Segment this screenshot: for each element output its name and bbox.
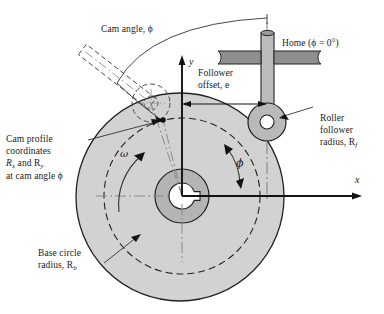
roller-follower-leader-line	[284, 107, 313, 116]
ry-subscript: y	[41, 162, 44, 170]
guide-bar-right-segment	[274, 51, 321, 64]
cam-profile-label-line2: coordinates	[6, 146, 51, 158]
y-axis-arrowhead	[179, 55, 186, 65]
cam-follower-diagram: Cam angle, ϕ Home (ϕ = 0°) Follower offs…	[0, 0, 384, 314]
roller-follower-label-line2: follower	[320, 125, 353, 137]
roller-follower-label-line3: radius, Rf	[320, 137, 357, 152]
x-axis-arrowhead	[352, 193, 362, 200]
phantom-rod-centerline	[86, 52, 151, 103]
roller-radius-text: radius, R	[320, 137, 355, 147]
roller-follower-label-line1: Roller	[320, 113, 344, 125]
base-circle-radius-text: radius, R	[38, 260, 73, 270]
base-circle-label-line2: radius, Rb	[38, 260, 77, 275]
follower-rod-top-cap	[261, 30, 274, 35]
y-axis-label: y	[189, 56, 194, 68]
roller-bore	[260, 115, 274, 129]
guide-bar-left-segment	[218, 51, 261, 64]
x-axis-label: x	[355, 174, 360, 186]
follower-offset-label-line1: Follower	[198, 68, 233, 80]
phi-symbol-label: ϕ	[236, 158, 244, 170]
follower-offset-label-line2: offset, e	[198, 80, 229, 92]
base-circle-label-line1: Base circle	[38, 248, 81, 260]
and-text: and R	[15, 158, 40, 168]
base-circle-subscript: b	[73, 264, 77, 272]
cam-profile-label-line4: at cam angle ϕ	[6, 171, 63, 183]
roller-radius-subscript: f	[355, 141, 357, 149]
roller-follower-group	[248, 30, 286, 141]
cam-angle-label: Cam angle, ϕ	[101, 24, 153, 36]
omega-symbol-label: ω	[120, 148, 128, 160]
cam-profile-label-line1: Cam profile	[6, 134, 53, 146]
home-position-label: Home (ϕ = 0°)	[282, 38, 339, 50]
